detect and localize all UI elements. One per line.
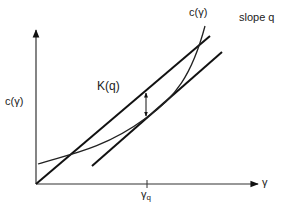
c-gamma-curve	[38, 26, 205, 164]
slope-label: slope q	[239, 12, 274, 23]
k-q-label: K(q)	[97, 80, 120, 92]
x-axis-label: γ	[262, 177, 268, 188]
upper-line	[36, 36, 210, 184]
gamma-q-label: γq	[141, 189, 151, 202]
legendre-diagram	[0, 0, 284, 208]
curve-label: c(γ)	[189, 7, 207, 18]
y-axis-label: c(γ)	[5, 96, 23, 107]
gamma-q-subscript: q	[147, 193, 151, 202]
